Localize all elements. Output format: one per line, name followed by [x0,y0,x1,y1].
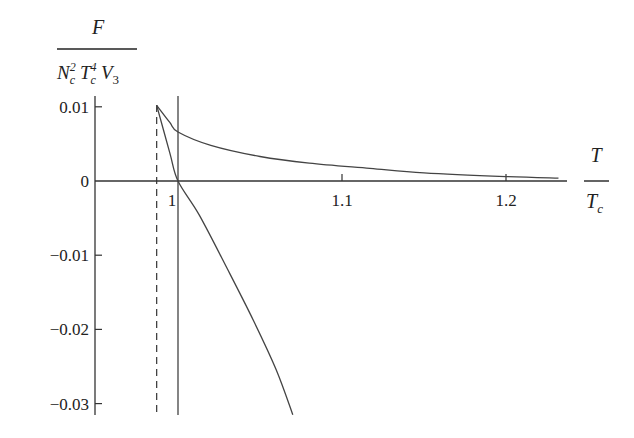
y-tick-label: −0.03 [50,395,89,414]
series [157,105,559,414]
x-label-denominator: Tc [586,190,603,216]
series-upper-branch-line [157,105,559,178]
y-tick-label: 0 [81,172,90,191]
x-axis-label: T Tc [584,144,609,216]
series-lower-branch-line [157,105,293,414]
y-axis-label: F N2cT4cV3 [56,16,137,87]
y-label-denominator: N2cT4cV3 [56,60,119,87]
y-label-T-sub: c [91,73,97,87]
y-tick-label: 0.01 [59,98,89,117]
axes [95,96,567,415]
y-label-N-sup: 2 [70,60,76,74]
y-label-V-sub: 3 [113,72,120,87]
x-tick-label: 1.2 [495,191,516,210]
y-label-N-sub: c [70,73,76,87]
ticks: 0.010−0.01−0.02−0.0311.11.2 [50,98,517,414]
x-tick-label: 1 [168,191,177,210]
y-tick-label: −0.01 [50,246,89,265]
x-label-numerator: T [590,144,603,166]
chart: F N2cT4cV3 T Tc 0.010−0.01−0.02−0.0311.1… [0,0,634,438]
y-label-T-sup: 4 [91,60,97,74]
y-label-numerator: F [91,16,105,38]
y-tick-label: −0.02 [50,320,89,339]
x-tick-label: 1.1 [331,191,352,210]
